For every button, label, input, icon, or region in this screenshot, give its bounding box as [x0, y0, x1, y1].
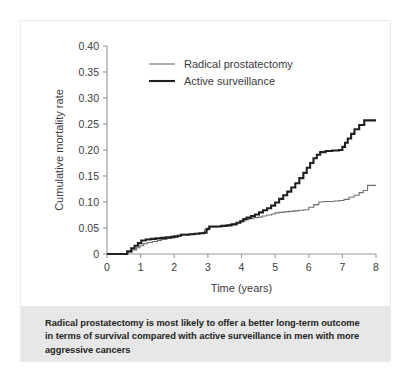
y-tick-label: 0.10: [79, 196, 100, 208]
y-tick-label: 0.30: [79, 92, 100, 104]
figure-caption-text: Radical prostatectomy is most likely to …: [45, 317, 368, 357]
y-tick-label: 0.40: [79, 40, 100, 52]
figure-caption-box: Radical prostatectomy is most likely to …: [21, 306, 390, 361]
x-tick-label: 0: [104, 261, 110, 273]
x-tick-label: 7: [339, 261, 345, 273]
y-tick-label: 0.25: [79, 118, 100, 130]
y-axis-title: Cumulative mortality rate: [53, 89, 65, 211]
y-tick-label: 0.35: [79, 66, 100, 78]
legend-label-0: Radical prostatectomy: [184, 58, 293, 70]
x-tick-label: 1: [138, 261, 144, 273]
chart-plot-area: 00.050.100.150.200.250.300.350.400123456…: [21, 21, 390, 306]
figure-root: 00.050.100.150.200.250.300.350.400123456…: [0, 0, 411, 382]
x-tick-label: 4: [239, 261, 245, 273]
x-tick-label: 3: [205, 261, 211, 273]
series-line-radical-prostatectomy: [107, 185, 376, 254]
chart-legend: Radical prostatectomyActive surveillance: [149, 58, 293, 87]
series-line-active-surveillance: [107, 120, 376, 254]
x-tick-label: 5: [272, 261, 278, 273]
figure-frame: 00.050.100.150.200.250.300.350.400123456…: [20, 20, 391, 362]
x-tick-label: 6: [306, 261, 312, 273]
y-tick-label: 0.05: [79, 222, 100, 234]
x-tick-label: 2: [171, 261, 177, 273]
y-tick-label: 0.20: [79, 144, 100, 156]
y-tick-label: 0: [93, 248, 99, 260]
y-tick-label: 0.15: [79, 170, 100, 182]
legend-label-1: Active surveillance: [184, 75, 275, 87]
x-axis-title: Time (years): [211, 282, 272, 294]
series-group: [107, 120, 376, 254]
x-tick-label: 8: [373, 261, 379, 273]
cumulative-mortality-chart: 00.050.100.150.200.250.300.350.400123456…: [21, 21, 390, 306]
